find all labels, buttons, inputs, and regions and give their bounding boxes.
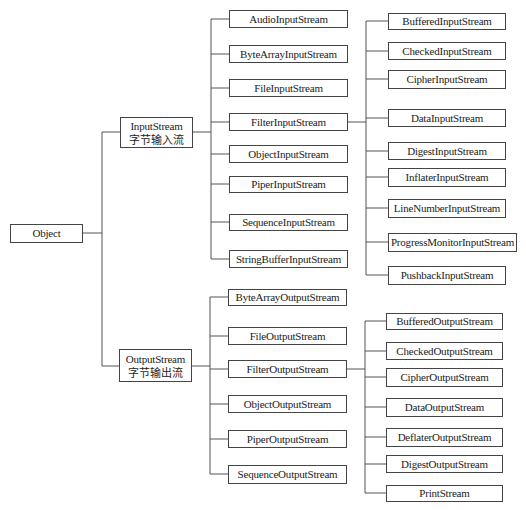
node-label: DataOutputStream	[405, 401, 484, 413]
node-fileinputstream: FileInputStream	[229, 79, 348, 97]
node-sequenceoutputstream: SequenceOutputStream	[228, 465, 347, 484]
node-label: ByteArrayOutputStream	[236, 291, 340, 303]
node-label: StringBufferInputStream	[236, 253, 341, 265]
node-bytearrayinputstream: ByteArrayInputStream	[229, 45, 348, 63]
node-label: SequenceInputStream	[242, 216, 335, 228]
node-deflateroutputstream: DeflaterOutputStream	[386, 428, 503, 447]
node-label: OutputStream	[126, 352, 185, 366]
node-label: CipherInputStream	[407, 73, 488, 85]
node-label: ProgressMonitorInputStream	[391, 236, 514, 248]
node-label: DigestInputStream	[407, 145, 487, 157]
node-object: Object	[10, 224, 83, 243]
node-checkedinputstream: CheckedInputStream	[388, 42, 506, 60]
node-sublabel: 字节输出流	[128, 366, 182, 380]
node-digestinputstream: DigestInputStream	[388, 142, 506, 160]
node-progressmonitorinputstream: ProgressMonitorInputStream	[388, 233, 517, 252]
class-hierarchy-diagram: Object InputStream 字节输入流 OutputStream 字节…	[0, 0, 526, 510]
node-fileoutputstream: FileOutputStream	[228, 327, 347, 345]
node-inflaterinputstream: InflaterInputStream	[388, 168, 506, 187]
node-label: InflaterInputStream	[406, 171, 489, 183]
node-objectinputstream: ObjectInputStream	[229, 145, 348, 163]
node-bufferedoutputstream: BufferedOutputStream	[386, 313, 503, 330]
node-label: DeflaterOutputStream	[398, 431, 492, 443]
node-label: BufferedInputStream	[402, 15, 491, 27]
node-label: BufferedOutputStream	[396, 315, 493, 327]
node-label: CheckedInputStream	[402, 45, 491, 57]
node-label: AudioInputStream	[249, 13, 328, 25]
node-checkedoutputstream: CheckedOutputStream	[386, 342, 503, 360]
node-label: FilterOutputStream	[247, 363, 329, 375]
node-label: PushbackInputStream	[401, 269, 494, 281]
node-label: Object	[32, 227, 60, 239]
node-label: PiperOutputStream	[247, 433, 329, 445]
node-bufferedinputstream: BufferedInputStream	[388, 13, 506, 30]
node-sublabel: 字节输入流	[129, 133, 183, 147]
node-label: FileOutputStream	[250, 330, 326, 342]
node-sequenceinputstream: SequenceInputStream	[229, 214, 348, 231]
node-digestoutputstream: DigestOutputStream	[386, 455, 503, 473]
node-filteroutputstream: FilterOutputStream	[228, 360, 347, 378]
node-cipherinputstream: CipherInputStream	[388, 70, 506, 89]
node-label: ByteArrayInputStream	[240, 48, 337, 60]
node-piperinputstream: PiperInputStream	[229, 176, 348, 193]
node-piperoutputstream: PiperOutputStream	[228, 430, 347, 448]
node-label: InputStream	[130, 119, 182, 133]
node-audioinputstream: AudioInputStream	[229, 10, 348, 28]
node-filterinputstream: FilterInputStream	[229, 113, 348, 131]
node-linenumberinputstream: LineNumberInputStream	[388, 199, 506, 218]
node-label: LineNumberInputStream	[394, 202, 500, 214]
node-pushbackinputstream: PushbackInputStream	[388, 266, 506, 285]
node-datainputstream: DataInputStream	[388, 109, 506, 127]
node-bytearrayoutputstream: ByteArrayOutputStream	[228, 289, 347, 306]
node-stringbufferinputstream: StringBufferInputStream	[229, 250, 348, 268]
node-label: CheckedOutputStream	[396, 345, 492, 357]
node-label: CipherOutputStream	[400, 371, 488, 383]
node-label: SequenceOutputStream	[238, 468, 338, 480]
node-label: DataInputStream	[411, 112, 483, 124]
node-label: ObjectInputStream	[248, 148, 328, 160]
node-inputstream: InputStream 字节输入流	[120, 117, 193, 148]
node-label: FileInputStream	[254, 82, 323, 94]
node-objectoutputstream: ObjectOutputStream	[228, 395, 347, 413]
node-cipheroutputstream: CipherOutputStream	[386, 368, 503, 387]
node-outputstream: OutputStream 字节输出流	[119, 349, 192, 382]
node-label: FilterInputStream	[251, 116, 326, 128]
node-label: ObjectOutputStream	[244, 398, 331, 410]
node-label: PiperInputStream	[251, 178, 325, 190]
node-dataoutputstream: DataOutputStream	[386, 398, 503, 417]
node-label: PrintStream	[419, 487, 469, 499]
node-printstream: PrintStream	[386, 485, 503, 502]
node-label: DigestOutputStream	[401, 458, 488, 470]
